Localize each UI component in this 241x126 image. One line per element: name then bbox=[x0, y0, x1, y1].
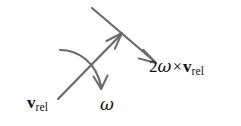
coriolis-omega-symbol: ω bbox=[158, 56, 172, 76]
v-rel-subscript: rel bbox=[36, 101, 48, 114]
omega-symbol: ω bbox=[100, 94, 114, 114]
label-v-rel: vrel bbox=[27, 94, 48, 113]
coriolis-v-subscript: rel bbox=[191, 65, 203, 78]
label-coriolis-term: 2ω×vrel bbox=[149, 58, 204, 77]
cross-product-icon: × bbox=[171, 57, 183, 76]
v-rel-vector-symbol: v bbox=[27, 93, 36, 112]
label-omega: ω bbox=[100, 96, 114, 113]
coriolis-vector-figure: vrel ω 2ω×vrel bbox=[0, 0, 241, 126]
coriolis-coefficient: 2 bbox=[149, 57, 158, 76]
